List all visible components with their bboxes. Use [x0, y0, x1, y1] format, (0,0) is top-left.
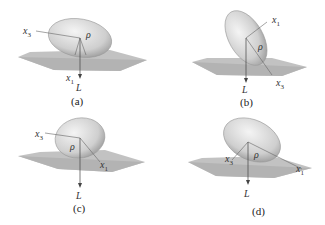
label-x3: x3	[276, 78, 284, 91]
label-x1: x1	[296, 164, 304, 177]
panel-d: x3 ρ⃗ x1 L⃗ (d)	[162, 112, 324, 224]
label-x3: x3	[23, 26, 31, 39]
panel-a: x3 ρ⃗ x1 L⃗ (a)	[0, 0, 162, 112]
caption-a: (a)	[71, 95, 83, 107]
label-x3: x3	[225, 154, 233, 167]
caption-d: (d)	[252, 205, 265, 217]
label-x1: x1	[272, 15, 280, 28]
label-rho: ρ⃗	[254, 150, 267, 160]
label-rho: ρ⃗	[258, 42, 271, 52]
label-rho: ρ⃗	[86, 30, 99, 40]
label-rho: ρ⃗	[70, 142, 83, 152]
label-L: L⃗	[244, 189, 257, 199]
panel-b: x1 ρ⃗ x3 L⃗ (b)	[162, 0, 324, 112]
label-x3: x3	[35, 129, 43, 142]
label-L: L⃗	[76, 191, 89, 201]
caption-b: (b)	[240, 96, 253, 108]
label-x1: x1	[66, 73, 74, 86]
label-L: L⃗	[242, 85, 255, 95]
label-x1: x1	[100, 160, 108, 173]
panel-c: x3 ρ⃗ x1 L⃗ (c)	[0, 112, 162, 224]
caption-c: (c)	[73, 202, 85, 214]
label-L: L⃗	[76, 83, 89, 93]
